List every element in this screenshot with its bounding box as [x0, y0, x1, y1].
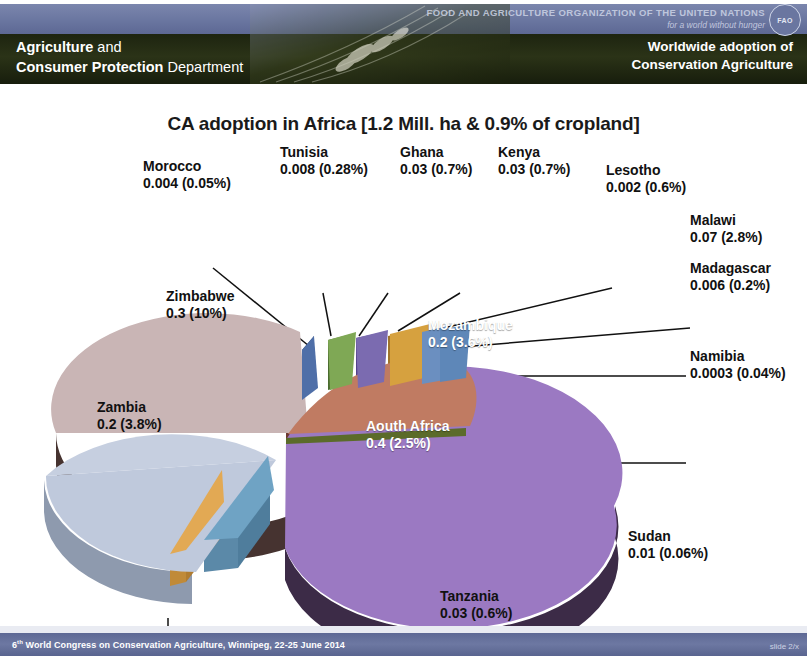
- fao-tagline: for a world without hunger: [667, 20, 765, 30]
- label-lesotho-name: Lesotho: [606, 162, 686, 179]
- label-zimbabwe-value: 0.3 (10%): [166, 305, 234, 322]
- label-tunisia-name: Tunisia: [280, 144, 368, 161]
- label-south-africa-name: Aouth Africa: [366, 418, 449, 435]
- presentation-title: Worldwide adoption of Conservation Agric…: [631, 38, 793, 74]
- label-lesotho: Lesotho 0.002 (0.6%): [606, 162, 686, 195]
- presentation-title-line-2: Conservation Agriculture: [631, 56, 793, 74]
- slice-top-tunisia: [328, 332, 356, 390]
- leader-line-tunisia: [323, 293, 331, 336]
- label-sudan-value: 0.01 (0.06%): [628, 545, 708, 562]
- label-sudan: Sudan 0.01 (0.06%): [628, 528, 708, 561]
- slide-page: FOOD AND AGRICULTURE ORGANIZATION OF THE…: [0, 0, 807, 656]
- label-zimbabwe: Zimbabwe 0.3 (10%): [166, 288, 234, 322]
- slide-footer: 6th World Congress on Conservation Agric…: [0, 626, 807, 656]
- label-south-africa-value: 0.4 (2.5%): [366, 435, 449, 452]
- label-malawi: Malawi 0.07 (2.8%): [690, 212, 762, 245]
- label-mozambique-value: 0.2 (3.6%): [428, 334, 513, 351]
- footer-slide-number: slide 2/x: [770, 642, 799, 651]
- label-madagascar: Madagascar 0.006 (0.2%): [690, 260, 771, 293]
- label-ghana-value: 0.03 (0.7%): [400, 161, 472, 178]
- footer-congress-text: 6th World Congress on Conservation Agric…: [12, 639, 345, 650]
- label-morocco-name: Morocco: [143, 158, 231, 175]
- label-mozambique: Mozambique 0.2 (3.6%): [428, 317, 513, 351]
- fao-logo-label: FAO: [777, 17, 792, 24]
- label-morocco: Morocco 0.004 (0.05%): [143, 158, 231, 191]
- label-madagascar-value: 0.006 (0.2%): [690, 277, 771, 294]
- label-zambia: Zambia 0.2 (3.8%): [97, 399, 162, 433]
- label-namibia-value: 0.0003 (0.04%): [690, 365, 786, 382]
- pie-3d-body: [44, 313, 622, 626]
- fao-organization-line: FOOD AND AGRICULTURE ORGANIZATION OF THE…: [427, 7, 765, 18]
- label-sudan-name: Sudan: [628, 528, 708, 545]
- department-thin-1: and: [93, 39, 121, 55]
- label-namibia: Namibia 0.0003 (0.04%): [690, 348, 786, 381]
- label-namibia-name: Namibia: [690, 348, 786, 365]
- label-ghana-name: Ghana: [400, 144, 472, 161]
- label-tunisia-value: 0.008 (0.28%): [280, 161, 368, 178]
- label-kenya: Kenya 0.03 (0.7%): [498, 144, 570, 177]
- department-strong-2: Consumer Protection: [16, 59, 163, 75]
- label-madagascar-name: Madagascar: [690, 260, 771, 277]
- label-tanzania-name: Tanzania: [440, 588, 512, 605]
- label-zambia-value: 0.2 (3.8%): [97, 416, 162, 433]
- department-line-2: Consumer Protection Department: [16, 58, 243, 78]
- label-zambia-name: Zambia: [97, 399, 162, 416]
- department-strong-1: Agriculture: [16, 39, 93, 55]
- label-lesotho-value: 0.002 (0.6%): [606, 179, 686, 196]
- label-tanzania: Tanzania 0.03 (0.6%): [440, 588, 512, 621]
- slice-top-ghana: [356, 330, 388, 388]
- presentation-title-line-1: Worldwide adoption of: [631, 38, 793, 56]
- leader-line-ghana: [359, 293, 388, 336]
- label-kenya-value: 0.03 (0.7%): [498, 161, 570, 178]
- department-line-1: Agriculture and: [16, 38, 243, 58]
- label-ghana: Ghana 0.03 (0.7%): [400, 144, 472, 177]
- label-mozambique-name: Mozambique: [428, 317, 513, 334]
- label-south-africa: Aouth Africa 0.4 (2.5%): [366, 418, 449, 452]
- fao-logo-icon: FAO: [769, 4, 801, 36]
- footer-ordinal-suffix: th: [17, 639, 23, 645]
- slide-header: FOOD AND AGRICULTURE ORGANIZATION OF THE…: [0, 0, 807, 88]
- label-morocco-value: 0.004 (0.05%): [143, 175, 231, 192]
- label-tunisia: Tunisia 0.008 (0.28%): [280, 144, 368, 177]
- label-zimbabwe-name: Zimbabwe: [166, 288, 234, 305]
- department-thin-2: Department: [163, 59, 243, 75]
- label-malawi-name: Malawi: [690, 212, 762, 229]
- label-kenya-name: Kenya: [498, 144, 570, 161]
- footer-congress-label: World Congress on Conservation Agricultu…: [26, 640, 345, 650]
- department-title: Agriculture and Consumer Protection Depa…: [16, 38, 243, 77]
- slice-top-morocco: [302, 336, 318, 400]
- label-tanzania-value: 0.03 (0.6%): [440, 605, 512, 622]
- label-malawi-value: 0.07 (2.8%): [690, 229, 762, 246]
